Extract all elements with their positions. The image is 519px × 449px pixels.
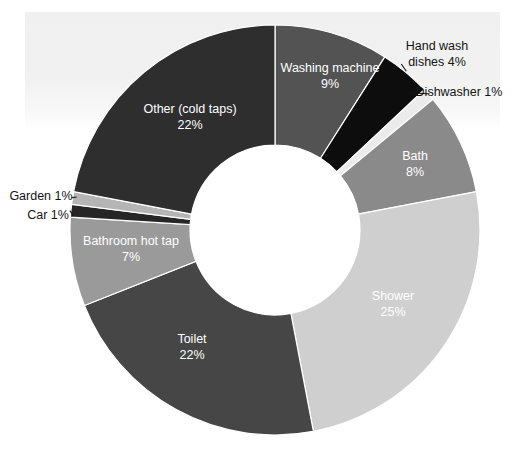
slice-label-line: Bath	[402, 149, 428, 163]
slice-label-line: Bathroom hot tap	[83, 234, 179, 248]
slice-label-line: Shower	[372, 289, 414, 303]
slice-label-line: Car 1%	[27, 208, 69, 222]
slice-label-line: 25%	[380, 305, 405, 319]
slice-label-line: 22%	[179, 348, 204, 362]
slice-label-line: 9%	[321, 77, 339, 91]
slice-label-hand-wash-dishes: Hand washdishes 4%	[406, 39, 469, 69]
slice-label-line: Garden 1%	[9, 189, 72, 203]
slice-label-dishwasher: Dishwasher 1%	[416, 85, 503, 99]
slice-label-line: Washing machine	[281, 61, 380, 75]
slice-label-line: Other (cold taps)	[143, 102, 236, 116]
donut-hole	[190, 145, 360, 315]
slice-label-garden: Garden 1%	[9, 189, 72, 203]
slice-label-line: Toilet	[177, 332, 207, 346]
slice-label-line: 8%	[406, 165, 424, 179]
slice-label-car: Car 1%	[27, 208, 69, 222]
slice-label-line: Dishwasher 1%	[416, 85, 503, 99]
slice-label-line: Hand wash	[406, 39, 469, 53]
slice-label-line: 7%	[122, 250, 140, 264]
donut-chart: Washing machine9%Hand washdishes 4%Dishw…	[0, 0, 519, 449]
slice-label-line: 22%	[177, 118, 202, 132]
slice-label-line: dishes 4%	[408, 55, 466, 69]
donut-chart-svg: Washing machine9%Hand washdishes 4%Dishw…	[0, 0, 519, 449]
